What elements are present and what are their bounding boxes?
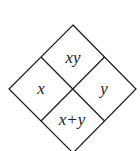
diamond-diagram: xy x y x+y (0, 0, 140, 151)
cell-top-label: xy (64, 48, 81, 67)
cell-right-label: y (98, 79, 108, 98)
cell-bottom-label: x+y (58, 110, 86, 129)
cell-left-label: x (36, 79, 45, 98)
